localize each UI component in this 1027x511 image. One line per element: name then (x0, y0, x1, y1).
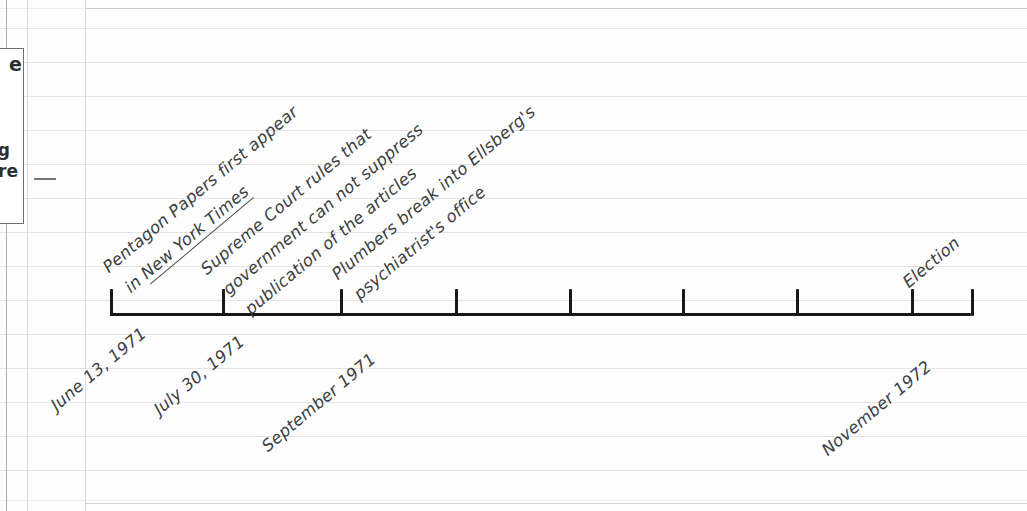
side-box-line-2: re (0, 161, 18, 181)
timeline-tick (455, 289, 458, 316)
margin-line (85, 0, 86, 511)
date-label-november-1972: November 1972 (818, 357, 935, 460)
timeline-tick (796, 289, 799, 316)
rule-line (0, 368, 1027, 369)
timeline-axis (110, 313, 971, 316)
rule-line (0, 198, 1027, 199)
rule-line (0, 500, 1027, 501)
date-label-june-13-1971: June 13, 1971 (47, 324, 150, 415)
rule-line (0, 62, 1027, 63)
annotation-election: Election (899, 233, 963, 291)
side-box-line-1: g (0, 140, 10, 160)
timeline-tick (222, 289, 225, 316)
rule-line (0, 96, 1027, 97)
date-label-july-30-1971: July 30, 1971 (150, 332, 248, 419)
timeline-tick (911, 289, 914, 316)
timeline-tick (340, 289, 343, 316)
rule-line (0, 436, 1027, 437)
margin-line (27, 0, 28, 511)
rule-line (0, 300, 1027, 301)
side-box-title: e (0, 53, 22, 75)
rule-line (0, 164, 1027, 165)
timeline-tick (569, 289, 572, 316)
timeline-tick (110, 289, 113, 316)
page-edge-top (85, 8, 1027, 9)
timeline-tick (971, 289, 974, 316)
page-edge-bottom (85, 503, 1027, 504)
notebook-page: e g re Pentagon Papers first appear in N… (0, 0, 1027, 511)
rule-line (0, 334, 1027, 335)
rule-line (0, 28, 1027, 29)
side-box-connector-line (34, 178, 56, 180)
timeline-tick (682, 289, 685, 316)
rule-line (0, 470, 1027, 471)
